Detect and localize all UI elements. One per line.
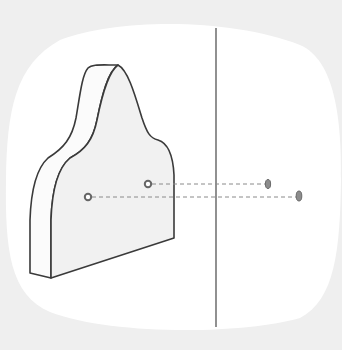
left-point-upper [145, 181, 151, 187]
diagram-svg [0, 0, 342, 350]
left-point-lower [85, 194, 91, 200]
right-point-lower [296, 191, 302, 201]
right-point-upper [265, 180, 270, 189]
diagram-canvas: Thick flat 3D plate with peaked top, two… [0, 0, 342, 350]
